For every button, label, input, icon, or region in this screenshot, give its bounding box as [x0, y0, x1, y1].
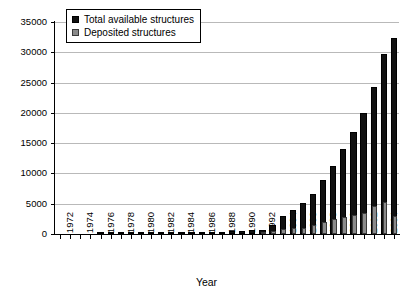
legend-label-total: Total available structures	[84, 14, 194, 25]
bar-total-1991	[249, 230, 255, 234]
y-tick-label: 10000	[0, 167, 47, 178]
bar-deposited-1995	[292, 228, 297, 234]
gridline	[55, 143, 399, 144]
bar-chart: Total available structures Deposited str…	[0, 0, 413, 296]
x-tick-mark	[333, 234, 334, 239]
x-tick-mark	[192, 234, 193, 239]
y-tick-label: 0	[0, 228, 47, 239]
bar-total-1982	[158, 232, 164, 234]
bar-total-1981	[148, 232, 154, 234]
x-tick-mark	[80, 234, 81, 239]
y-tick-label: 15000	[0, 137, 47, 148]
y-tick-mark	[51, 143, 55, 144]
y-tick-mark	[51, 113, 55, 114]
bar-deposited-1997	[312, 225, 317, 234]
gridline	[55, 52, 399, 53]
x-tick-mark	[70, 234, 71, 239]
y-tick-mark	[51, 173, 55, 174]
x-tick-mark	[131, 234, 132, 239]
x-tick-mark	[161, 234, 162, 239]
x-tick-mark	[364, 234, 365, 239]
bar-deposited-1996	[302, 228, 307, 234]
bar-total-1988	[219, 232, 225, 234]
bar-deposited-1993	[271, 231, 276, 234]
bar-deposited-2000	[342, 217, 347, 234]
gridline	[55, 83, 399, 84]
y-tick-label: 30000	[0, 46, 47, 57]
bar-deposited-1992	[261, 232, 266, 234]
gridline	[55, 173, 399, 174]
x-tick-mark	[323, 234, 324, 239]
y-tick-mark	[51, 22, 55, 23]
y-tick-label: 5000	[0, 198, 47, 209]
x-tick-mark	[60, 234, 61, 239]
y-tick-label: 35000	[0, 16, 47, 27]
x-axis-title: Year	[0, 276, 413, 288]
legend-swatch-total-icon	[72, 16, 79, 23]
x-tick-mark	[101, 234, 102, 239]
y-tick-mark	[51, 204, 55, 205]
x-tick-mark	[303, 234, 304, 239]
bar-deposited-2003	[372, 206, 377, 234]
x-tick-mark	[353, 234, 354, 239]
x-tick-mark	[232, 234, 233, 239]
bar-deposited-2004	[383, 202, 388, 234]
x-tick-mark	[252, 234, 253, 239]
gridline	[55, 113, 399, 114]
chart-legend: Total available structures Deposited str…	[66, 9, 201, 43]
x-tick-mark	[374, 234, 375, 239]
bar-deposited-2002	[362, 213, 367, 234]
x-tick-mark	[212, 234, 213, 239]
bar-total-1983	[168, 232, 174, 234]
x-tick-mark	[90, 234, 91, 239]
bar-total-1980	[138, 232, 144, 234]
x-tick-mark	[394, 234, 395, 239]
bar-deposited-1994	[281, 229, 286, 234]
gridline	[55, 204, 399, 205]
x-tick-mark	[242, 234, 243, 239]
bar-deposited-2001	[352, 215, 357, 234]
bar-total-1984	[178, 232, 184, 234]
bar-total-1978	[118, 232, 124, 234]
bar-total-1989	[229, 231, 235, 234]
bar-total-1987	[209, 232, 215, 234]
x-tick-mark	[262, 234, 263, 239]
bar-total-1976	[97, 232, 103, 234]
bar-deposited-2005	[393, 216, 398, 234]
y-tick-label: 25000	[0, 77, 47, 88]
x-tick-mark	[384, 234, 385, 239]
x-tick-mark	[283, 234, 284, 239]
x-tick-mark	[343, 234, 344, 239]
x-tick-mark	[151, 234, 152, 239]
bar-total-1979	[128, 232, 134, 234]
x-tick-mark	[273, 234, 274, 239]
plot-area	[55, 22, 399, 234]
y-tick-label: 20000	[0, 107, 47, 118]
x-tick-mark	[313, 234, 314, 239]
bar-total-2005	[391, 38, 397, 234]
legend-swatch-deposited-icon	[72, 29, 79, 36]
x-tick-mark	[121, 234, 122, 239]
y-tick-mark	[51, 52, 55, 53]
bar-total-1977	[108, 232, 114, 234]
x-tick-mark	[293, 234, 294, 239]
x-tick-mark	[141, 234, 142, 239]
bar-total-1985	[188, 232, 194, 234]
x-tick-mark	[181, 234, 182, 239]
bar-total-1986	[199, 232, 205, 234]
legend-item-total: Total available structures	[72, 13, 194, 26]
x-tick-mark	[171, 234, 172, 239]
x-tick-mark	[111, 234, 112, 239]
bar-total-1990	[239, 231, 245, 234]
x-tick-mark	[202, 234, 203, 239]
legend-label-deposited: Deposited structures	[84, 27, 176, 38]
bar-deposited-1998	[322, 222, 327, 234]
y-tick-mark	[51, 83, 55, 84]
legend-item-deposited: Deposited structures	[72, 26, 194, 39]
y-tick-mark	[51, 234, 55, 235]
bar-deposited-1999	[332, 219, 337, 234]
x-tick-mark	[222, 234, 223, 239]
